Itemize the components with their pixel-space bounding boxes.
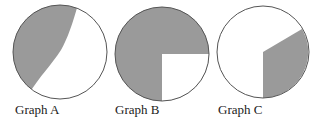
graph-c (217, 6, 309, 98)
graph-b (115, 7, 209, 101)
graph-b-label: Graph B (115, 102, 159, 118)
graph-b-unshaded-quadrant (162, 54, 209, 101)
graph-a-label: Graph A (15, 102, 59, 118)
graph-c-label: Graph C (218, 102, 262, 118)
graph-a (0, 0, 107, 110)
